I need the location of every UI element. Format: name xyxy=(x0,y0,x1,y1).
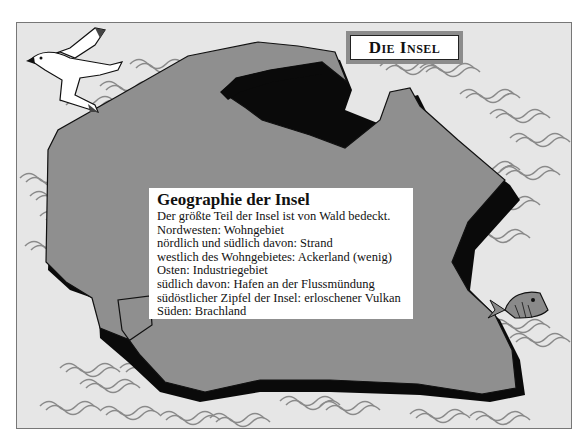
info-line: südlich davon: Hafen an der Flussmündung xyxy=(157,278,413,292)
fish-icon xyxy=(488,292,548,318)
seagull-icon xyxy=(26,28,122,112)
info-heading: Geographie der Insel xyxy=(157,191,413,209)
info-line: Nordwesten: Wohngebiet xyxy=(157,224,413,238)
title-plaque: Die Insel xyxy=(346,31,463,64)
info-line: nördlich und südlich davon: Strand xyxy=(157,237,413,251)
island-map-page: Die Insel Geographie der Insel Der größt… xyxy=(0,0,586,440)
info-line: westlich des Wohngebietes: Ackerland (we… xyxy=(157,251,413,265)
page-title: Die Insel xyxy=(350,35,459,60)
geography-info-box: Geographie der Insel Der größte Teil der… xyxy=(149,188,413,319)
info-line: Der größte Teil der Insel ist von Wald b… xyxy=(157,210,413,224)
info-line: Osten: Industriegebiet xyxy=(157,264,413,278)
info-line: Süden: Brachland xyxy=(157,305,413,319)
info-line: südöstlicher Zipfel der Insel: erloschen… xyxy=(157,292,413,306)
